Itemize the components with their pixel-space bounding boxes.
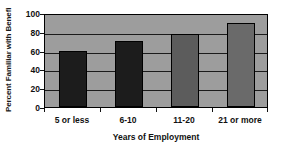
- bars-group: [45, 15, 267, 107]
- y-axis-tick-label: 40: [18, 65, 40, 75]
- x-axis-tick-label: 6-10: [100, 114, 156, 126]
- x-axis-tick-label: 21 or more: [212, 114, 268, 126]
- x-axis-tick-mark: [100, 108, 101, 112]
- y-axis-tick-mark: [40, 14, 44, 15]
- y-axis-tick-label: 80: [18, 28, 40, 38]
- bar: [227, 23, 255, 107]
- plot-area: [44, 14, 268, 108]
- y-axis-tick-label: 0: [18, 103, 40, 113]
- x-axis-title: Years of Employment: [44, 131, 268, 144]
- y-axis-tick-label: 60: [18, 47, 40, 57]
- x-axis-tick-label: 11-20: [156, 114, 212, 126]
- bar: [171, 34, 199, 107]
- y-axis-tick-label: 100: [18, 9, 40, 19]
- y-axis-tick-mark: [40, 52, 44, 53]
- bar-chart: Percent Familiar with Benefi 02040608010…: [0, 0, 281, 153]
- bar: [59, 51, 87, 107]
- y-axis-tick-label: 20: [18, 84, 40, 94]
- x-axis-tick-mark: [267, 108, 268, 112]
- x-axis-tick-mark: [212, 108, 213, 112]
- y-axis-tick-labels: 020406080100: [13, 14, 40, 108]
- x-axis-tick-label: 5 or less: [44, 114, 100, 126]
- y-axis-tick-mark: [40, 89, 44, 90]
- x-axis-tick-mark: [156, 108, 157, 112]
- x-axis-tick-mark: [44, 108, 45, 112]
- y-axis-tick-mark: [40, 70, 44, 71]
- bar: [115, 41, 143, 107]
- y-axis-tick-mark: [40, 33, 44, 34]
